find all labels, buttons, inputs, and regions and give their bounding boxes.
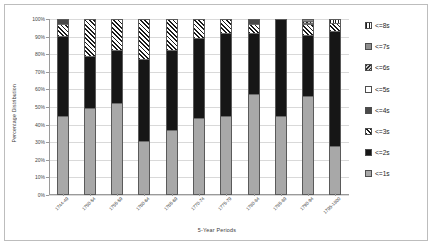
bar-group[interactable] [131,19,158,195]
bar-segment[interactable] [249,34,259,95]
bar-group[interactable] [49,19,76,195]
stacked-bar[interactable] [248,19,260,195]
bar-group[interactable] [322,19,349,195]
legend-label: <=2s [375,149,390,156]
legend-label: <=4s [375,107,390,114]
legend-item[interactable]: <=4s [365,100,427,121]
x-tick-mark [144,193,145,196]
bar-segment[interactable] [249,25,259,34]
legend-swatch-5s-icon [365,86,372,93]
y-tick-label: 90% [35,34,45,40]
legend-swatch-4s-icon [365,107,372,114]
bar-group[interactable] [158,19,185,195]
x-tick-label: 1760-64 [136,196,151,211]
bar-segment[interactable] [85,20,95,57]
legend-item[interactable]: <=3s [365,121,427,142]
bar-segment[interactable] [58,25,68,37]
stacked-bar[interactable] [111,19,123,195]
bar-segment[interactable] [139,20,149,60]
bar-segment[interactable] [249,95,259,194]
bar-segment[interactable] [221,34,231,118]
bar-segment[interactable] [330,32,340,147]
x-tick-mark [117,193,118,196]
bar-group[interactable] [185,19,212,195]
legend-label: <=8s [375,22,390,29]
bar-segment[interactable] [167,51,177,131]
bar-segment[interactable] [330,24,340,33]
legend-item[interactable]: <=8s [365,15,427,36]
bar-segment[interactable] [167,131,177,194]
legend-label: <=7s [375,43,390,50]
x-tick-mark [90,193,91,196]
chart-legend: <=8s<=7s<=6s<=5s<=4s<=3s<=2s<=1s [365,15,427,185]
legend-item[interactable]: <=5s [365,79,427,100]
bar-segment[interactable] [194,119,204,194]
bar-segment[interactable] [58,37,68,117]
plot-area [49,19,349,195]
y-tick-label: 40% [35,122,45,128]
stacked-bar[interactable] [57,19,69,195]
bar-segment[interactable] [194,39,204,119]
bar-segment[interactable] [112,51,122,103]
bar-segment[interactable] [85,57,95,109]
stacked-bar[interactable] [275,19,287,195]
x-tick-label: 1744-49 [54,196,69,211]
bar-group[interactable] [104,19,131,195]
legend-swatch-1s-icon [365,170,372,177]
y-tick-label: 60% [35,86,45,92]
bar-segment[interactable] [221,117,231,194]
stacked-bar[interactable] [329,19,341,195]
x-tick-mark [63,193,64,196]
bar-group[interactable] [76,19,103,195]
bar-segment[interactable] [330,147,340,194]
stacked-bar[interactable] [138,19,150,195]
bar-group[interactable] [294,19,321,195]
x-axis-tick-labels: 1744-491750-541755-591760-641765-691770-… [49,196,349,226]
bar-segment[interactable] [276,117,286,194]
chart-frame: Percentage Distribution 0%10%20%30%40%50… [4,4,428,241]
bar-segment[interactable] [139,142,149,194]
stacked-bar[interactable] [166,19,178,195]
bar-segment[interactable] [303,97,313,194]
y-axis-tick-labels: 0%10%20%30%40%50%60%70%80%90%100% [19,19,47,195]
bar-group[interactable] [213,19,240,195]
bar-group[interactable] [267,19,294,195]
stacked-bar[interactable] [193,19,205,195]
bar-segment[interactable] [167,20,177,51]
x-tick-mark [172,193,173,196]
y-tick-label: 20% [35,157,45,163]
legend-item[interactable]: <=6s [365,57,427,78]
bar-segment[interactable] [85,109,95,194]
bar-segment[interactable] [112,20,122,51]
legend-item[interactable]: <=1s [365,163,427,184]
stacked-bar[interactable] [84,19,96,195]
bar-segment[interactable] [276,20,286,117]
x-tick-mark [308,193,309,196]
bar-segment[interactable] [194,20,204,39]
bar-segment[interactable] [303,25,313,35]
legend-label: <=5s [375,86,390,93]
legend-label: <=1s [375,170,390,177]
x-tick-label: 1785-89 [272,196,287,211]
x-tick-label: 1775-79 [217,196,232,211]
x-tick-mark [226,193,227,196]
bar-segment[interactable] [58,117,68,194]
x-tick-mark [254,193,255,196]
bar-group[interactable] [240,19,267,195]
stacked-bar[interactable] [220,19,232,195]
bar-segment[interactable] [139,60,149,142]
legend-item[interactable]: <=2s [365,142,427,163]
y-axis-title-text: Percentage Distribution [11,84,17,143]
legend-item[interactable]: <=7s [365,36,427,57]
y-tick-label: 0% [38,192,45,198]
y-tick-label: 30% [35,139,45,145]
bar-segment[interactable] [112,104,122,194]
bar-segment[interactable] [221,20,231,34]
y-tick-label: 50% [35,104,45,110]
stacked-bar[interactable] [302,19,314,195]
bar-segment[interactable] [303,36,313,97]
x-tick-label: 1795-1800 [323,196,342,215]
y-tick-label: 10% [35,174,45,180]
legend-swatch-6s-icon [365,64,372,71]
legend-swatch-8s-icon [365,22,372,29]
